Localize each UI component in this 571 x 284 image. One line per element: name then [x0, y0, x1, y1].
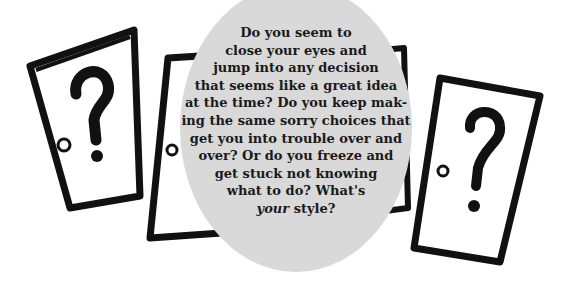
illustration: Do you seem to close your eyes and jump … [0, 0, 571, 284]
emphasis-word: your [257, 201, 290, 216]
oval-text-block: Do you seem to close your eyes and jump … [178, 24, 414, 218]
oval-line: that seems like a great idea [178, 77, 414, 95]
oval-line: what to do? What's [178, 182, 414, 200]
oval-last-line: your style? [178, 200, 414, 218]
oval-line: jump into any decision [178, 59, 414, 77]
left-door-icon [30, 30, 140, 208]
oval-line: get stuck not knowing [178, 165, 414, 183]
oval-line: Do you seem to [178, 24, 414, 42]
oval-line: get you into trouble over and [178, 130, 414, 148]
oval-line: at the time? Do you keep mak- [178, 94, 414, 112]
oval-line: close your eyes and [178, 42, 414, 60]
right-door-icon [414, 78, 540, 262]
oval-line: over? Or do you freeze and [178, 147, 414, 165]
last-line-rest: style? [289, 201, 335, 216]
oval-line: ing the same sorry choices that [178, 112, 414, 130]
